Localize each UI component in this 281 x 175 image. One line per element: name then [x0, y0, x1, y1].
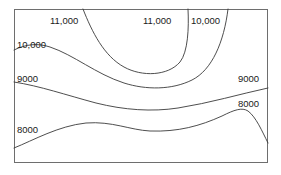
contour-label-10000-top-right: 10,000: [191, 15, 220, 26]
contour-label-9000-left-middle: 9000: [17, 73, 38, 84]
contour-plot-canvas: 11,00011,00010,00010,0009000900080008000: [0, 0, 281, 175]
contour-map-figure: 11,00011,00010,00010,0009000900080008000: [0, 0, 281, 175]
contour-label-8000-right-lower: 8000: [238, 98, 259, 109]
plot-frame: [15, 10, 268, 163]
contour-label-9000-right-middle: 9000: [238, 73, 259, 84]
contour-label-8000-left-lower: 8000: [17, 124, 38, 135]
contour-label-10000-left-upper: 10,000: [17, 39, 46, 50]
contour-label-11000-top-left: 11,000: [50, 15, 78, 26]
contour-label-11000-top-center: 11,000: [143, 15, 171, 26]
